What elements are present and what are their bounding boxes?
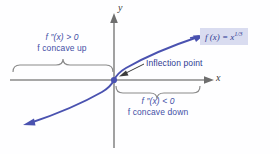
annotation-concave-up: f ″(x) > 0 f concave up: [14, 32, 110, 54]
annotation-concave-up-line2: f concave up: [14, 43, 110, 54]
function-label-prefix: f (x) = x: [205, 32, 234, 42]
annotation-concave-down: f ″(x) < 0 f concave down: [108, 96, 208, 118]
annotation-concave-down-line1: f ″(x) < 0: [108, 96, 208, 107]
annotation-concave-down-line2: f concave down: [108, 107, 208, 118]
function-label: f (x) = x1/3: [200, 28, 248, 45]
figure-canvas: [0, 0, 279, 154]
annotation-inflection-point: Inflection point: [146, 58, 202, 69]
function-label-exponent: 1/3: [234, 30, 242, 37]
inflection-point-marker: [111, 77, 117, 83]
figure-cube-root-concavity: y x f ″(x) > 0 f concave up f ″(x) < 0 f…: [0, 0, 279, 154]
annotation-concave-up-line1: f ″(x) > 0: [14, 32, 110, 43]
y-axis-label: y: [118, 2, 122, 13]
brace-concave-up: [13, 59, 113, 72]
x-axis-label: x: [216, 72, 220, 83]
